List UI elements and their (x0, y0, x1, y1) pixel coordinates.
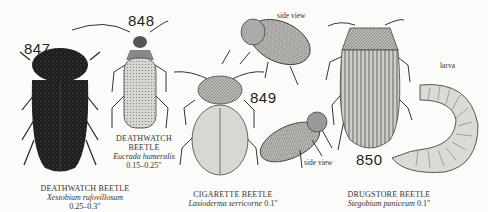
larva-label: larva (440, 61, 455, 70)
side-view-label-top: side view (277, 11, 306, 20)
scientific-name: Eucrada humeralis (106, 152, 182, 161)
scientific-name: Xestobium rufovillosum (0, 193, 170, 202)
size: 0.1" (264, 199, 277, 208)
caption-848: DEATHWATCH BEETLE Eucrada humeralis 0.15… (106, 134, 182, 170)
caption-849: CIGARETTE BEETLE Lasioderma serricorne 0… (168, 190, 298, 208)
common-name-line2: BEETLE (106, 143, 182, 152)
size: 0.1" (417, 199, 430, 208)
figure-number-850: 850 (356, 151, 383, 168)
common-name: DEATHWATCH BEETLE (0, 184, 170, 193)
scientific-line: Lasioderma serricorne 0.1" (168, 199, 298, 208)
size-range: 0.25–0.3" (0, 202, 170, 211)
scientific-name: Lasioderma serricorne (188, 199, 262, 208)
common-name: CIGARETTE BEETLE (168, 190, 298, 199)
figure-number-848: 848 (128, 12, 155, 29)
size-range: 0.15–0.25" (106, 161, 182, 170)
scientific-line: Stegobium paniceum 0.1" (328, 199, 450, 208)
figure-number-847: 847 (24, 40, 51, 57)
side-view-label-bottom: side view (304, 158, 333, 167)
common-name: DRUGSTORE BEETLE (328, 190, 450, 199)
caption-850: DRUGSTORE BEETLE Stegobium paniceum 0.1" (328, 190, 450, 208)
common-name-line1: DEATHWATCH (106, 134, 182, 143)
beetle-illustrations (0, 0, 488, 212)
figure-number-849: 849 (250, 89, 277, 106)
caption-847: DEATHWATCH BEETLE Xestobium rufovillosum… (0, 184, 170, 211)
scientific-name: Stegobium paniceum (348, 199, 415, 208)
